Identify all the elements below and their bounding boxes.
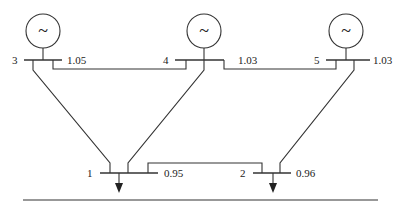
one-line-diagram: ~ ~ ~ 3 1.05 4 1.03 5 1.03 1 0.95 2 0.96 xyxy=(0,0,397,211)
bus-voltage-1: 0.95 xyxy=(164,167,184,179)
bus-voltage-3: 1.05 xyxy=(67,54,87,66)
line-3-1 xyxy=(33,60,110,173)
bus-label-4: 4 xyxy=(163,54,169,66)
bus-voltage-5: 1.03 xyxy=(373,54,393,66)
load-arrow-icon xyxy=(269,183,277,193)
bus-voltage-2: 0.96 xyxy=(296,167,316,179)
line-4-1 xyxy=(128,60,204,173)
bus-label-5: 5 xyxy=(314,54,320,66)
line-5-2 xyxy=(280,60,354,173)
load-arrow-icon xyxy=(115,183,123,193)
bus-label-1: 1 xyxy=(87,167,93,179)
generator-symbol: ~ xyxy=(38,21,48,41)
generator-symbol: ~ xyxy=(199,21,209,41)
bus-voltage-4: 1.03 xyxy=(238,54,258,66)
generator-symbol: ~ xyxy=(341,21,351,41)
bus-label-3: 3 xyxy=(12,54,18,66)
bus-label-2: 2 xyxy=(240,167,246,179)
